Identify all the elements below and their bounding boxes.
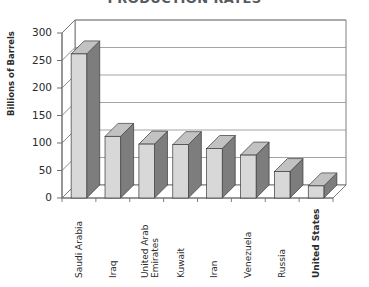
bar-chart: PRODUCTION RATES Billions of Barrels 300… [0, 0, 369, 287]
x-tick-label: Iran [210, 260, 220, 278]
x-tick-label: Iraq [109, 260, 119, 278]
x-tick-label: United States [312, 209, 322, 278]
x-tick-label: Kuwait [177, 248, 187, 278]
x-tick-label: Saudi Arabia [75, 221, 85, 278]
x-tick-label: United Arab Emirates [141, 216, 160, 278]
x-tick-label: Russia [278, 249, 288, 278]
x-tick-label: Venezuela [244, 232, 254, 278]
x-axis-tick-labels: Saudi ArabiaIraqUnited Arab EmiratesKuwa… [0, 0, 369, 287]
